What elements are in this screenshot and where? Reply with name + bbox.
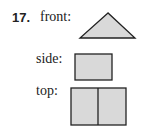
orthographic-views-figure [0, 0, 142, 136]
side-view-rectangle [75, 54, 112, 80]
front-view-triangle [80, 13, 135, 38]
